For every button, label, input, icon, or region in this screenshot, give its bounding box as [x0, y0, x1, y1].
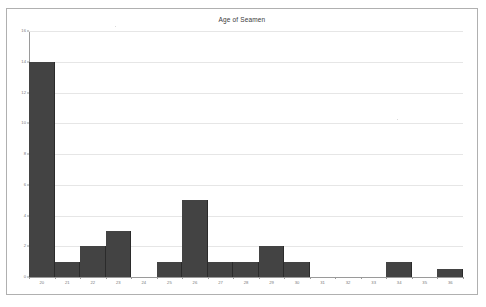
bar	[182, 200, 208, 277]
x-tick-mark	[463, 277, 464, 279]
x-tick-label: 30	[295, 281, 300, 285]
bar	[259, 246, 285, 277]
x-tick-mark	[361, 277, 362, 279]
gridline	[29, 185, 463, 186]
x-tick-label: 24	[142, 281, 147, 285]
x-tick-mark	[29, 277, 30, 279]
gridline	[29, 216, 463, 217]
gridlines	[29, 31, 463, 277]
y-tick-label: 0	[24, 275, 26, 279]
bar	[106, 231, 132, 277]
x-tick-label: 33	[371, 281, 376, 285]
x-tick-mark	[437, 277, 438, 279]
bar	[208, 262, 234, 277]
x-tick-mark	[386, 277, 387, 279]
x-tick-label: 21	[65, 281, 70, 285]
x-tick-label: 20	[39, 281, 44, 285]
y-tick-label: 4	[24, 213, 26, 217]
x-tick-mark	[106, 277, 107, 279]
y-tick-label: 6	[24, 183, 26, 187]
x-tick-mark	[157, 277, 158, 279]
x-tick-label: 29	[269, 281, 274, 285]
x-tick-label: 36	[448, 281, 453, 285]
y-tick-label: 8	[24, 152, 26, 156]
x-tick-mark	[310, 277, 311, 279]
chart-frame: Age of Seamen 0246810121416 202122232425…	[6, 8, 478, 295]
x-tick-mark	[55, 277, 56, 279]
x-tick-label: 28	[244, 281, 249, 285]
x-tick-label: 22	[90, 281, 95, 285]
gridline	[29, 31, 463, 32]
artifact-speck-top	[115, 26, 116, 27]
y-tick-label: 12	[21, 90, 26, 94]
x-tick-label: 35	[422, 281, 427, 285]
x-tick-mark	[131, 277, 132, 279]
y-tick-label: 16	[21, 29, 26, 33]
x-tick-mark	[233, 277, 234, 279]
x-tick-mark	[182, 277, 183, 279]
y-tick-label: 10	[21, 121, 26, 125]
y-tick-label: 2	[24, 244, 26, 248]
gridline	[29, 123, 463, 124]
x-tick-label: 34	[397, 281, 402, 285]
x-tick-mark	[335, 277, 336, 279]
y-tick-label: 14	[21, 60, 26, 64]
y-tick-mark	[27, 31, 29, 32]
chart-title: Age of Seamen	[7, 16, 477, 23]
bar	[284, 262, 310, 277]
bar	[80, 246, 106, 277]
bar	[29, 62, 55, 277]
gridline	[29, 62, 463, 63]
bar	[157, 262, 183, 277]
x-tick-mark	[284, 277, 285, 279]
x-axis-line	[29, 277, 463, 278]
x-tick-label: 31	[320, 281, 325, 285]
x-tick-mark	[412, 277, 413, 279]
bar	[233, 262, 259, 277]
bar	[386, 262, 412, 277]
x-tick-mark	[80, 277, 81, 279]
gridline	[29, 93, 463, 94]
plot-area: 0246810121416	[29, 31, 463, 277]
gridline	[29, 154, 463, 155]
bar	[55, 262, 81, 277]
x-tick-label: 25	[167, 281, 172, 285]
x-tick-mark	[208, 277, 209, 279]
x-tick-label: 23	[116, 281, 121, 285]
x-tick-label: 32	[346, 281, 351, 285]
bar	[437, 269, 463, 277]
x-tick-mark	[259, 277, 260, 279]
x-tick-label: 27	[218, 281, 223, 285]
x-tick-label: 26	[193, 281, 198, 285]
